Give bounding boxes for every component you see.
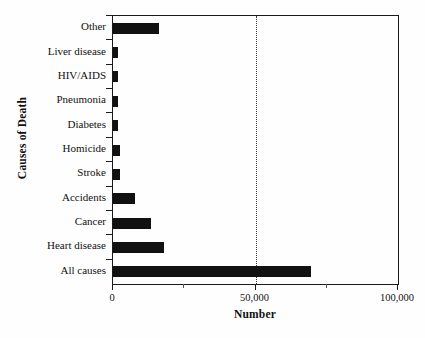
- bar: [113, 120, 118, 131]
- y-axis-tick: [106, 210, 112, 211]
- bar: [113, 145, 120, 156]
- bar: [113, 242, 164, 253]
- bar-row: [113, 169, 398, 180]
- bar-row: [113, 23, 398, 34]
- bar: [113, 266, 311, 277]
- y-axis-tick: [106, 161, 112, 162]
- bar: [113, 169, 120, 180]
- y-axis-tick: [106, 15, 112, 16]
- bar: [113, 218, 151, 229]
- y-axis-tick-label: Other: [0, 21, 106, 32]
- bar-row: [113, 242, 398, 253]
- y-axis-tick-label: Liver disease: [0, 46, 106, 57]
- bar-row: [113, 145, 398, 156]
- bar: [113, 47, 118, 58]
- y-axis-tick: [106, 137, 112, 138]
- bar: [113, 71, 118, 82]
- y-axis-tick: [106, 112, 112, 113]
- y-axis-tick-label: All causes: [0, 265, 106, 276]
- x-axis-tick: [397, 284, 398, 290]
- bar-row: [113, 218, 398, 229]
- bar-row: [113, 96, 398, 107]
- y-axis-tick-label: Cancer: [0, 216, 106, 227]
- y-axis-tick: [106, 186, 112, 187]
- y-axis-tick-label: Stroke: [0, 167, 106, 178]
- bar: [113, 193, 135, 204]
- y-axis-tick: [106, 88, 112, 89]
- y-axis-tick: [106, 259, 112, 260]
- y-axis-tick: [106, 234, 112, 235]
- bar: [113, 23, 159, 34]
- y-axis-tick-label: Heart disease: [0, 240, 106, 251]
- bar-row: [113, 120, 398, 131]
- x-axis-tick-label: 0: [109, 292, 114, 303]
- y-axis-tick-label: Accidents: [0, 192, 106, 203]
- bar-chart-figure: Causes of Death Number All causesHeart d…: [0, 0, 425, 338]
- y-axis-tick-label: HIV/AIDS: [0, 70, 106, 81]
- bar-row: [113, 193, 398, 204]
- x-axis-tick: [255, 284, 256, 290]
- bar-row: [113, 71, 398, 82]
- x-axis-minor-tick: [326, 284, 327, 288]
- y-axis-tick-label: Diabetes: [0, 119, 106, 130]
- y-axis-tick: [106, 39, 112, 40]
- x-axis-tick: [112, 284, 113, 290]
- x-axis-tick-label: 50,000: [240, 292, 269, 303]
- bar: [113, 96, 118, 107]
- x-axis-minor-tick: [183, 284, 184, 288]
- bar-row: [113, 47, 398, 58]
- y-axis-tick-label: Homicide: [0, 143, 106, 154]
- plot-area: [112, 15, 399, 285]
- x-axis-tick-label: 100,000: [380, 292, 414, 303]
- bar-row: [113, 266, 398, 277]
- y-axis-tick: [106, 64, 112, 65]
- y-axis-tick-label: Pneumonia: [0, 94, 106, 105]
